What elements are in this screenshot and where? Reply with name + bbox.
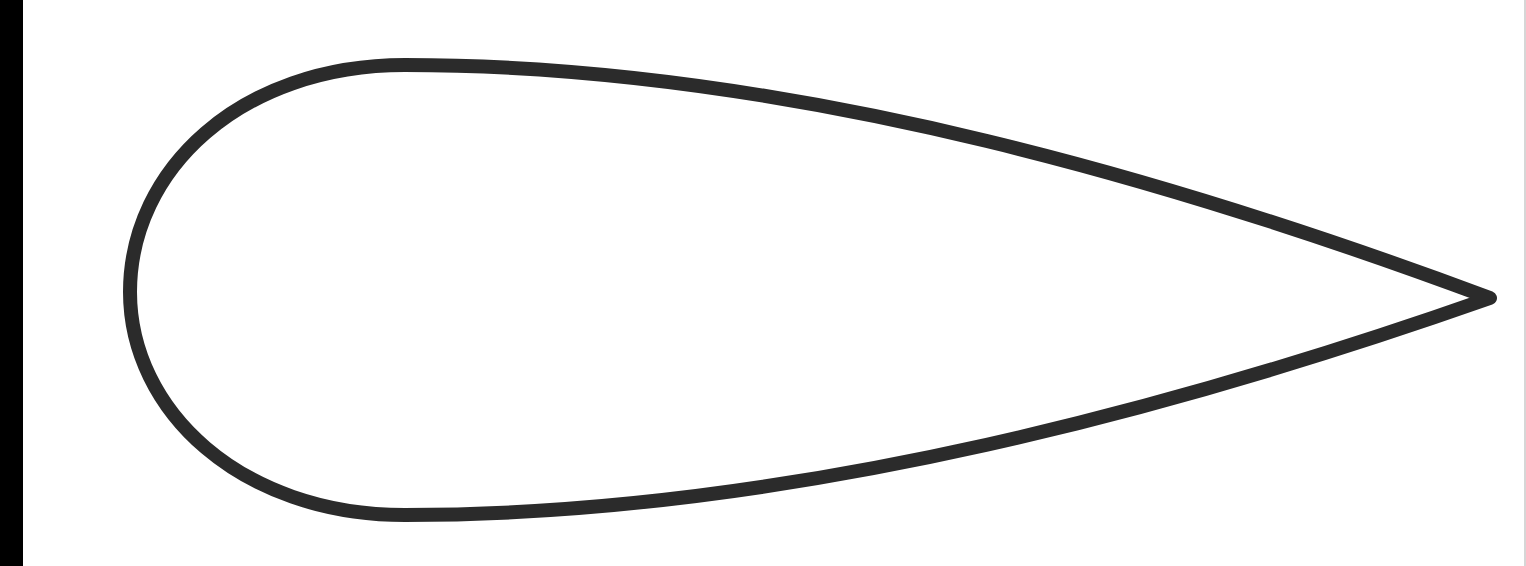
airfoil-diagram [0,0,1526,566]
airfoil-outline [130,65,1490,515]
